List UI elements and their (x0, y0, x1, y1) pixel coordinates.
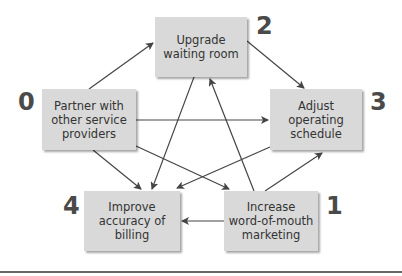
node-improve-billing-accuracy: Improveaccuracy ofbilling (84, 191, 180, 251)
node-adjust-operating-schedule: Adjustoperatingschedule (270, 89, 362, 150)
node-upgrade-waiting-room: Upgradewaiting room (155, 17, 247, 77)
node-label-line: Improve (99, 200, 166, 214)
node-label-line: accuracy of (99, 214, 166, 228)
edge-2-4 (152, 77, 194, 189)
node-label-line: schedule (288, 127, 343, 141)
node-number-2: 2 (256, 14, 273, 38)
node-label-line: word-of-mouth (229, 214, 314, 228)
edge-0-1 (136, 146, 229, 189)
edge-2-3 (247, 41, 304, 88)
node-label-line: providers (51, 127, 127, 141)
edge-0-4 (93, 150, 141, 189)
node-partner-with-providers: Partner withother serviceproviders (42, 89, 136, 150)
node-label-line: Adjust (288, 99, 343, 113)
node-increase-word-of-mouth: Increaseword-of-mouthmarketing (224, 191, 318, 251)
node-label-line: marketing (229, 228, 314, 242)
bottom-rule (0, 271, 402, 273)
edge-1-3 (265, 153, 322, 191)
edge-3-4 (177, 147, 270, 188)
edge-0-2 (89, 43, 153, 89)
node-label-line: Upgrade (163, 33, 238, 47)
node-label-line: operating (288, 113, 343, 127)
node-number-0: 0 (18, 90, 35, 114)
edge-1-2 (210, 79, 254, 191)
node-number-1: 1 (326, 194, 343, 218)
node-number-3: 3 (370, 90, 387, 114)
node-number-4: 4 (63, 194, 80, 218)
node-label-line: billing (99, 228, 166, 242)
node-label-line: Partner with (51, 99, 127, 113)
node-label-line: waiting room (163, 47, 238, 61)
node-label-line: other service (51, 113, 127, 127)
node-label-line: Increase (229, 200, 314, 214)
